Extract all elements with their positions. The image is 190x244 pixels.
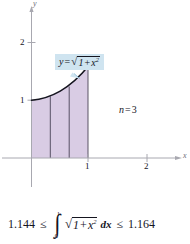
right-relation-symbol: ≤ [111,217,128,232]
function-label-callout: y = √ 1+x2 [55,54,104,70]
y-tick-label-1: 1 [20,95,25,105]
x-tick-label-1: 1 [85,161,90,171]
y-tick-label-2: 2 [20,37,25,47]
n-value: 3 [132,104,137,115]
x-axis-arrowhead [175,156,182,160]
integrand-square-root-glyph: √ 1+x2 [65,216,98,233]
n-value-label: n=3 [119,104,137,115]
y-axis-label: y [33,0,37,8]
figure-container: y = √ 1+x2 n=3 1 2 1 2 y x 1.144 ≤ ∫ 1 0 [0,0,190,244]
radicand-one: 1 [78,57,83,68]
differential-dx: dx [97,218,111,230]
x-tick-label-2: 2 [144,161,149,171]
upper-bound-value: 1.164 [128,217,155,232]
integral-upper-limit: 1 [57,210,60,217]
radicand: 1+x2 [77,56,100,68]
lower-bound-value: 1.144 [8,217,35,232]
shaded-area-under-curve [32,67,89,159]
integrand-plus: + [79,218,88,232]
integrand-radical-sign: √ [65,216,72,233]
integrand-exponent: 2 [93,218,96,225]
radicand-exponent: 2 [96,56,99,63]
n-equals: = [124,104,132,115]
x-axis-label: x [183,151,187,160]
left-relation-symbol: ≤ [35,217,52,232]
integral-lower-limit: 0 [55,232,58,239]
function-label-equals: = [64,56,72,67]
integrand-radicand: 1+x2 [72,217,97,233]
definite-integral: ∫ 1 0 [54,211,61,237]
integral-inequality-statement: 1.144 ≤ ∫ 1 0 √ 1+x2 dx ≤ 1.164 [8,205,190,243]
square-root-glyph: √ 1+x2 [71,55,100,68]
integrand-expression: √ 1+x2 dx [65,216,112,233]
radical-sign: √ [71,56,77,69]
